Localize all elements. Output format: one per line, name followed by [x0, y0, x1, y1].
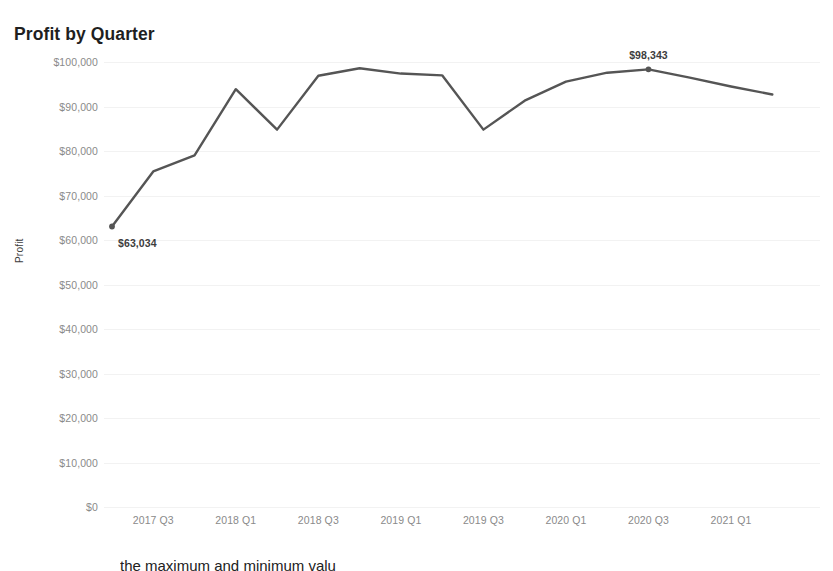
y-axis-tick-label: $20,000 [32, 412, 98, 424]
y-axis-tick-label: $80,000 [32, 145, 98, 157]
profit-by-quarter-visualization: Profit by Quarter Profit $100,000$90,000… [0, 0, 833, 571]
annotated-point-markers [109, 66, 651, 229]
plot-area: $63,034$98,343 [104, 62, 820, 507]
min-point-marker [109, 224, 115, 230]
y-axis-tick-label: $40,000 [32, 323, 98, 335]
x-axis-tick-label: 2020 Q1 [545, 514, 586, 526]
x-axis-tick-label: 2021 Q1 [711, 514, 752, 526]
y-axis-tick-label: $10,000 [32, 457, 98, 469]
max-point-label: $98,343 [629, 49, 668, 61]
y-axis-tick-label: $100,000 [32, 56, 98, 68]
x-axis-tick-label: 2018 Q3 [298, 514, 339, 526]
y-axis-tick-label: $60,000 [32, 234, 98, 246]
x-axis-tick-label: 2018 Q1 [215, 514, 256, 526]
gridline [104, 507, 820, 508]
y-axis-tick-label: $50,000 [32, 279, 98, 291]
x-axis-tick-label: 2019 Q1 [380, 514, 421, 526]
min-point-label: $63,034 [118, 237, 157, 249]
x-axis-tick-labels: 2017 Q32018 Q12018 Q32019 Q12019 Q32020 … [104, 514, 820, 534]
page-title: Profit by Quarter [14, 24, 155, 45]
y-axis-tick-label: $90,000 [32, 101, 98, 113]
y-axis-tick-label: $70,000 [32, 190, 98, 202]
y-axis-tick-label: $30,000 [32, 368, 98, 380]
line-series-svg [104, 62, 820, 507]
x-axis-tick-label: 2017 Q3 [133, 514, 174, 526]
y-axis-tick-label: $0 [32, 501, 98, 513]
x-axis-tick-label: 2019 Q3 [463, 514, 504, 526]
y-axis-title: Profit [14, 249, 25, 263]
profit-line [112, 68, 772, 226]
y-axis-tick-labels: $100,000$90,000$80,000$70,000$60,000$50,… [30, 62, 98, 507]
body-text-caption: the maximum and minimum valu [120, 556, 833, 571]
x-axis-tick-label: 2020 Q3 [628, 514, 669, 526]
max-point-marker [646, 66, 652, 72]
